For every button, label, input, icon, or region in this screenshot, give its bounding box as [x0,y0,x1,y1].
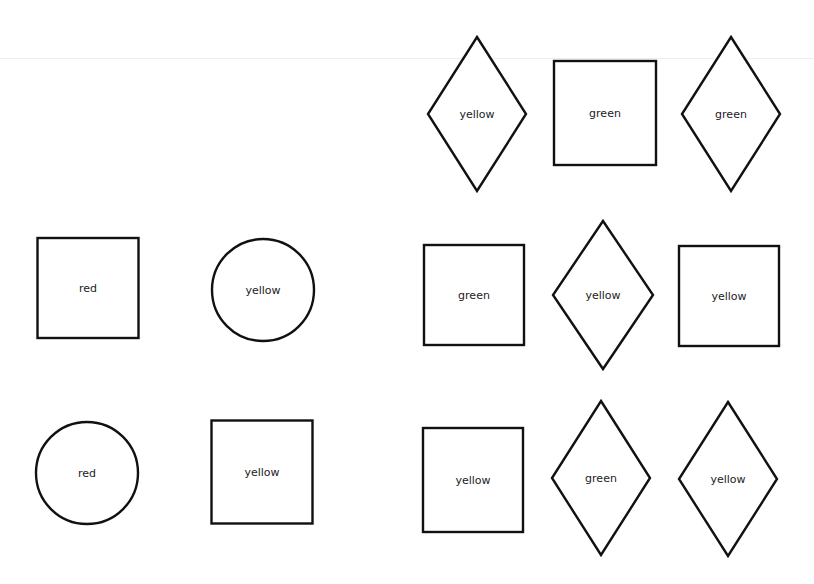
shape-label: green [589,107,621,120]
shape-label: yellow [585,289,620,302]
shape-label: yellow [710,473,745,486]
shape-label: red [79,282,97,295]
shape-label: green [585,472,617,485]
shape-label: yellow [711,290,746,303]
shape-label: yellow [455,474,490,487]
shape-label: yellow [245,284,280,297]
shape-label: green [458,289,490,302]
shape-label: red [78,467,96,480]
shape-diagram [0,0,814,584]
shape-label: green [715,108,747,121]
shape-label: yellow [244,466,279,479]
shape-label: yellow [459,108,494,121]
